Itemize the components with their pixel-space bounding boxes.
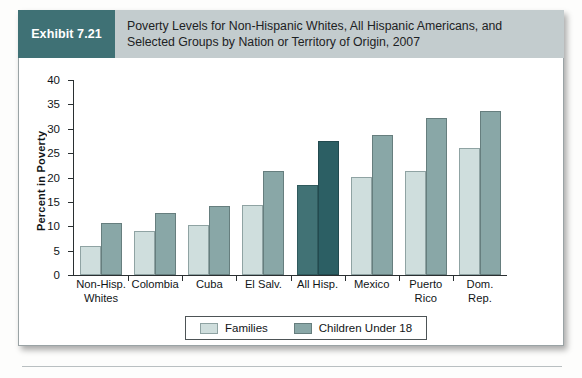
bar-families — [134, 231, 155, 275]
y-axis-tick-label: 0 — [54, 269, 60, 281]
category-label-line: Rep. — [453, 292, 507, 306]
bar-children — [101, 223, 122, 275]
exhibit-header-band: Exhibit 7.21 Poverty Levels for Non-Hisp… — [18, 10, 564, 58]
legend-item-families: Families — [200, 322, 268, 334]
x-axis-category-label: Dom.Rep. — [453, 278, 507, 305]
x-axis-category-label: Colombia — [128, 278, 182, 305]
exhibit-title-line-1: Poverty Levels for Non-Hispanic Whites, … — [127, 18, 502, 35]
bar-children — [318, 141, 339, 275]
bar-group — [399, 80, 453, 275]
chart-legend: Families Children Under 18 — [185, 316, 427, 340]
category-label-line: El Salv. — [236, 278, 290, 292]
bar-families — [459, 148, 480, 275]
category-label-line: Whites — [74, 292, 128, 306]
category-label-line — [182, 292, 236, 306]
legend-swatch-families-icon — [200, 323, 218, 334]
category-label-line: Colombia — [128, 278, 182, 292]
category-label-line — [128, 292, 182, 306]
x-axis-category-labels: Non-Hisp.WhitesColombia Cuba El Salv. Al… — [74, 278, 507, 305]
bar-group — [128, 80, 182, 275]
bar-families — [297, 185, 318, 275]
exhibit-title-line-2: Selected Groups by Nation or Territory o… — [127, 34, 502, 51]
y-axis-tick-label: 5 — [54, 245, 60, 257]
y-axis-tick: 0 — [68, 275, 73, 276]
y-axis-tick-label: 40 — [47, 74, 60, 86]
x-axis-category-label: All Hisp. — [291, 278, 345, 305]
bar-families — [242, 205, 263, 275]
y-axis-tick-label: 35 — [47, 98, 60, 110]
bar-group — [291, 80, 345, 275]
legend-item-children: Children Under 18 — [294, 322, 412, 334]
category-label-line — [236, 292, 290, 306]
y-axis-tick: 40 — [68, 80, 73, 81]
legend-label-families: Families — [225, 322, 268, 334]
bar-families — [405, 171, 426, 275]
y-axis-tick: 35 — [68, 104, 73, 105]
category-label-line: Mexico — [345, 278, 399, 292]
bar-group — [345, 80, 399, 275]
bar-series-layer — [74, 80, 507, 275]
y-axis-tick-label: 10 — [47, 220, 60, 232]
bar-children — [480, 111, 501, 275]
y-axis-tick: 10 — [68, 226, 73, 227]
exhibit-title: Poverty Levels for Non-Hispanic Whites, … — [115, 10, 564, 58]
bar-group — [182, 80, 236, 275]
y-axis-tick: 5 — [68, 251, 73, 252]
category-label-line: Dom. — [453, 278, 507, 292]
x-axis-category-label: Cuba — [182, 278, 236, 305]
category-label-line: Rico — [399, 292, 453, 306]
bar-children — [426, 118, 447, 275]
page-background: Exhibit 7.21 Poverty Levels for Non-Hisp… — [0, 0, 582, 378]
y-axis-tick: 20 — [68, 178, 73, 179]
y-axis-tick: 25 — [68, 153, 73, 154]
bar-families — [351, 177, 372, 275]
y-axis-tick-label: 15 — [47, 196, 60, 208]
category-label-line: Puerto — [399, 278, 453, 292]
category-label-line: All Hisp. — [291, 278, 345, 292]
bar-children — [155, 213, 176, 275]
x-axis-category-label: El Salv. — [236, 278, 290, 305]
y-axis-tick: 30 — [68, 129, 73, 130]
category-label-line — [291, 292, 345, 306]
exhibit-card: Exhibit 7.21 Poverty Levels for Non-Hisp… — [18, 10, 564, 346]
x-axis-category-label: Non-Hisp.Whites — [74, 278, 128, 305]
y-axis-tick: 15 — [68, 202, 73, 203]
legend-swatch-children-icon — [294, 323, 312, 334]
y-axis-tick-label: 20 — [47, 172, 60, 184]
x-axis-category-label: PuertoRico — [399, 278, 453, 305]
bar-group — [74, 80, 128, 275]
bar-children — [263, 171, 284, 275]
page-bottom-rule — [22, 366, 562, 367]
bar-families — [188, 225, 209, 275]
exhibit-number-badge: Exhibit 7.21 — [18, 10, 115, 58]
legend-label-children: Children Under 18 — [319, 322, 412, 334]
bar-group — [236, 80, 290, 275]
category-label-line: Non-Hisp. — [74, 278, 128, 292]
category-label-line — [345, 292, 399, 306]
bar-group — [453, 80, 507, 275]
chart-axes: 0510152025303540 — [73, 80, 507, 276]
bar-families — [80, 246, 101, 275]
y-axis-tick-label: 30 — [47, 123, 60, 135]
bar-children — [209, 206, 230, 275]
x-axis-category-label: Mexico — [345, 278, 399, 305]
category-label-line: Cuba — [182, 278, 236, 292]
y-axis-tick-label: 25 — [47, 147, 60, 159]
chart-plot-frame: Percent in Poverty 0510152025303540 Non-… — [18, 58, 564, 346]
bar-children — [372, 135, 393, 275]
